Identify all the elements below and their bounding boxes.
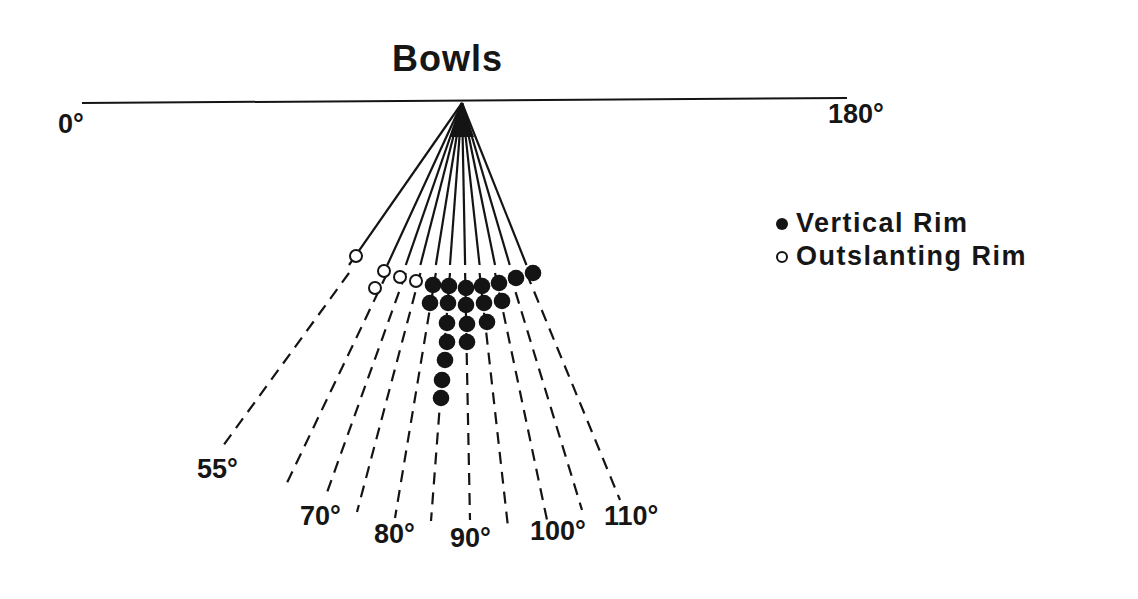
vertical-rim-point <box>422 295 439 312</box>
vertical-rim-point <box>479 314 496 331</box>
vertical-rim-point <box>437 352 454 369</box>
vertical-rim-point <box>459 334 476 351</box>
legend-label: Vertical Rim <box>796 208 969 239</box>
vertical-rim-point <box>439 315 456 332</box>
vertical-rim-point <box>433 390 450 407</box>
baseline-label-180: 180° <box>828 101 884 128</box>
data-points <box>350 250 541 406</box>
vertical-rim-point <box>425 277 442 294</box>
vertical-rim-point <box>476 295 493 312</box>
ray-dashed-3 <box>357 273 420 512</box>
vertical-rim-point <box>434 372 451 389</box>
angle-label-110: 110° <box>604 503 658 530</box>
angle-label-55: 55° <box>197 456 238 483</box>
outslanting-rim-point <box>394 271 406 283</box>
ray-solid-0 <box>349 103 462 265</box>
filled-circle-icon <box>776 218 788 230</box>
legend: Vertical Rim Outslanting Rim <box>776 207 1027 273</box>
outslanting-rim-point <box>378 265 390 277</box>
angle-label-100: 100° <box>530 518 586 545</box>
baseline-axis <box>82 98 847 103</box>
ray-dashed-0 <box>220 273 349 450</box>
vertical-rim-point <box>508 270 525 287</box>
outslanting-rim-point <box>369 282 381 294</box>
bowls-rim-angle-diagram: Bowls 0° 180° 55°70°80°90°100°110° Verti… <box>0 0 1138 599</box>
ray-dashed-2 <box>325 273 406 498</box>
legend-item-vertical-rim: Vertical Rim <box>776 207 1027 240</box>
angle-label-80: 80° <box>374 521 415 548</box>
baseline-label-0: 0° <box>58 111 84 138</box>
vertical-rim-point <box>459 316 476 333</box>
vertical-rim-point <box>491 275 508 292</box>
fan-diagram <box>0 0 1138 599</box>
vertical-rim-point <box>439 334 456 351</box>
vertical-rim-point <box>440 295 457 312</box>
vertical-rim-point <box>458 280 475 297</box>
vertical-rim-point <box>494 293 511 310</box>
angle-label-90: 90° <box>450 525 491 552</box>
vertical-rim-point <box>458 297 475 314</box>
legend-item-outslanting-rim: Outslanting Rim <box>776 240 1027 273</box>
angle-label-70: 70° <box>300 503 341 530</box>
outslanting-rim-point <box>350 250 362 262</box>
open-circle-icon <box>776 251 788 263</box>
vertical-rim-point <box>525 265 542 282</box>
ray-dashed-10 <box>526 273 620 500</box>
outslanting-rim-point <box>410 275 422 287</box>
vertical-rim-point <box>474 278 491 295</box>
angle-rays <box>220 103 620 527</box>
vertical-rim-point <box>441 278 458 295</box>
legend-label: Outslanting Rim <box>796 241 1027 272</box>
